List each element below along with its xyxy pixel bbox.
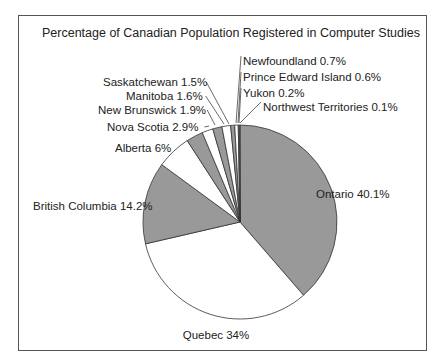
leader-line [240,102,261,123]
slice-label: Northwest Territories 0.1% [263,101,398,113]
slice-label: Saskatchewan 1.5% [103,76,207,88]
slice-label: Prince Edward Island 0.6% [243,71,381,83]
slice-label: Newfoundland 0.7% [243,55,346,67]
slice-label: Quebec 34% [183,329,250,341]
slice-label: Ontario 40.1% [316,188,390,200]
leader-line [206,82,229,124]
slice-label: Manitoba 1.6% [126,90,203,102]
slice-label: British Columbia 14.2% [33,200,153,212]
slice-label: New Brunswick 1.9% [98,104,206,116]
leader-line [207,110,215,125]
leader-line [204,126,209,127]
slice-label: Yukon 0.2% [243,87,304,99]
slice-label: Nova Scotia 2.9% [107,121,198,133]
pie-chart: Ontario 40.1%Quebec 34%British Columbia … [0,0,440,361]
slice-label: Alberta 6% [115,142,171,154]
